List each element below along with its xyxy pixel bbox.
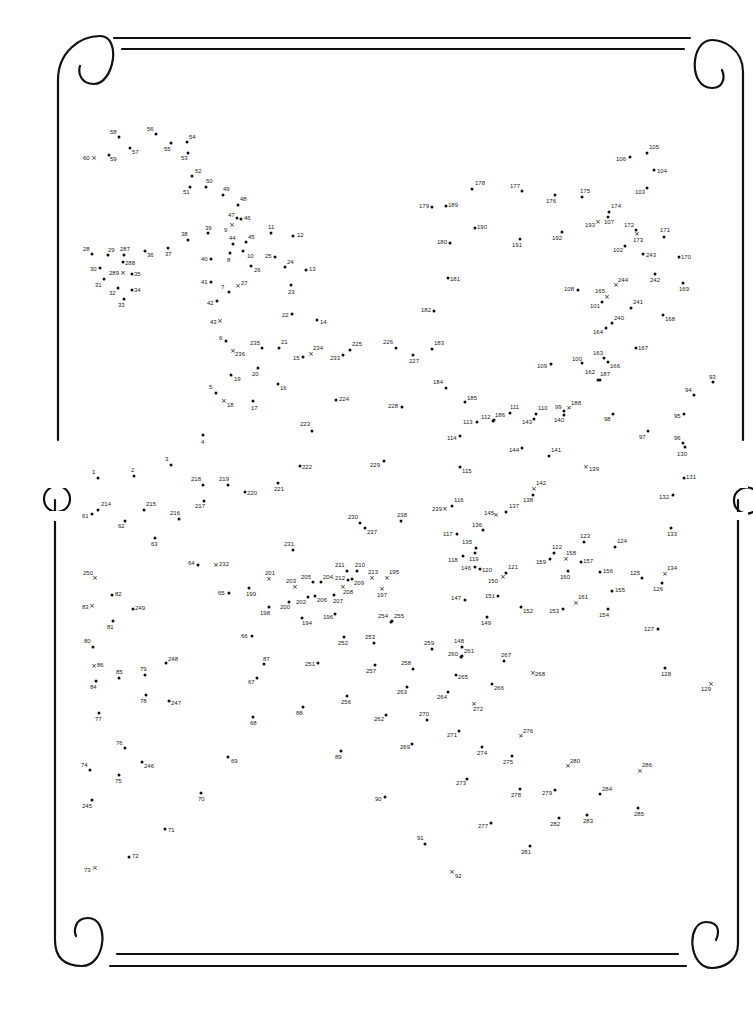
puzzle-dot	[311, 430, 314, 433]
start-end-x-marker: ×	[292, 584, 298, 591]
dot-number-label: 108	[564, 286, 574, 292]
puzzle-dot	[197, 564, 200, 567]
puzzle-dot	[228, 291, 231, 294]
dot-number-label: 56	[147, 126, 154, 132]
dot-number-label: 32	[109, 290, 116, 296]
puzzle-dot	[118, 677, 121, 680]
dot-number-label: 146	[461, 565, 471, 571]
puzzle-dot	[581, 196, 584, 199]
dot-number-label: 103	[635, 189, 645, 195]
puzzle-dot	[128, 856, 131, 859]
dot-number-label: 11	[268, 224, 274, 230]
start-end-x-marker: ×	[229, 222, 235, 229]
puzzle-dot	[605, 327, 608, 330]
puzzle-dot	[290, 284, 293, 287]
puzzle-dot	[474, 566, 477, 569]
puzzle-dot	[646, 152, 649, 155]
dot-number-label: 74	[81, 762, 88, 768]
dot-number-label: 81	[107, 624, 114, 630]
puzzle-dot	[317, 662, 320, 665]
puzzle-dot	[302, 356, 305, 359]
puzzle-dot	[236, 217, 239, 220]
dot-number-label: 196	[323, 614, 333, 620]
dot-number-label: 15	[293, 355, 300, 361]
dot-number-label: 155	[615, 587, 625, 593]
dot-number-label: 94	[685, 387, 692, 393]
dot-number-label: 159	[536, 559, 546, 565]
dot-number-label: 149	[481, 620, 491, 626]
dot-number-label: 26	[254, 267, 261, 273]
dot-number-label: 49	[223, 186, 230, 192]
puzzle-dot	[91, 799, 94, 802]
dot-number-label: 258	[401, 660, 411, 666]
dot-number-label: 207	[333, 598, 343, 604]
dot-number-label: 248	[168, 656, 178, 662]
dot-number-label: 181	[450, 276, 460, 282]
dot-number-label: 79	[140, 666, 147, 672]
dot-number-label: 91	[417, 835, 424, 841]
puzzle-dot	[312, 581, 315, 584]
dot-number-label: 60	[83, 155, 90, 161]
puzzle-dot	[274, 256, 277, 259]
dot-number-label: 198	[260, 610, 270, 616]
puzzle-dot	[278, 347, 281, 350]
dot-number-label: 93	[709, 374, 716, 380]
puzzle-dot	[248, 587, 251, 590]
dot-number-label: 232	[219, 561, 229, 567]
dot-number-label: 41	[201, 279, 208, 285]
puzzle-dot	[550, 363, 553, 366]
dot-number-label: 214	[101, 501, 111, 507]
dot-number-label: 235	[250, 340, 260, 346]
puzzle-dot	[284, 266, 287, 269]
dot-number-label: 66	[241, 633, 248, 639]
puzzle-dot	[245, 241, 248, 244]
dot-number-label: 14	[320, 319, 327, 325]
puzzle-dot	[335, 399, 338, 402]
dot-number-label: 46	[244, 215, 251, 221]
dot-number-label: 194	[302, 620, 312, 626]
dot-number-label: 163	[593, 350, 603, 356]
dot-number-label: 133	[667, 531, 677, 537]
puzzle-dot	[614, 546, 617, 549]
puzzle-dot	[346, 695, 349, 698]
dot-number-label: 152	[523, 608, 533, 614]
dot-number-label: 193	[585, 222, 595, 228]
puzzle-dot	[411, 743, 414, 746]
dot-number-label: 53	[181, 155, 188, 161]
puzzle-dot	[91, 253, 94, 256]
puzzle-dot	[252, 400, 255, 403]
dot-number-label: 76	[116, 740, 123, 746]
puzzle-dot	[486, 616, 489, 619]
dot-number-label: 192	[552, 235, 562, 241]
dot-number-label: 134	[667, 565, 677, 571]
dot-number-label: 266	[494, 685, 504, 691]
dot-number-label: 180	[437, 239, 447, 245]
puzzle-dot	[186, 141, 189, 144]
puzzle-dot	[167, 247, 170, 250]
dot-number-label: 161	[578, 594, 588, 600]
dot-number-label: 4	[201, 439, 204, 445]
dot-number-label: 115	[462, 468, 472, 474]
dot-number-label: 279	[542, 790, 552, 796]
dot-number-label: 151	[485, 593, 495, 599]
dot-number-label: 124	[617, 538, 627, 544]
puzzle-dot	[384, 796, 387, 799]
dot-number-label: 135	[462, 539, 472, 545]
dot-number-label: 54	[189, 134, 196, 140]
puzzle-dot	[657, 628, 660, 631]
dot-number-label: 273	[456, 780, 466, 786]
dot-number-label: 97	[639, 434, 646, 440]
dot-number-label: 186	[495, 412, 505, 418]
puzzle-dot	[291, 313, 294, 316]
dot-number-label: 169	[679, 286, 689, 292]
puzzle-dot	[646, 187, 649, 190]
dot-number-label: 55	[164, 146, 171, 152]
puzzle-dot	[240, 218, 243, 221]
dot-number-label: 5	[209, 384, 212, 390]
dot-number-label: 281	[521, 849, 531, 855]
dot-number-label: 209	[354, 580, 364, 586]
dot-number-label: 191	[512, 242, 522, 248]
puzzle-dot	[144, 674, 147, 677]
dot-number-label: 85	[116, 669, 123, 675]
dot-number-label: 125	[630, 570, 640, 576]
